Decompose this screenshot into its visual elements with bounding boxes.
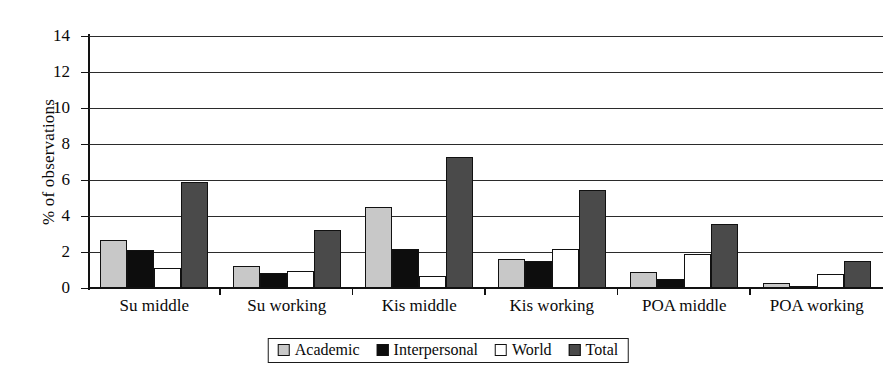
bar-interpersonal[interactable] [127, 250, 154, 288]
bar-group-bars [88, 36, 221, 288]
y-axis-tick-label: 4 [62, 206, 71, 226]
bar-interpersonal[interactable] [790, 286, 817, 288]
x-axis-tick [749, 287, 751, 295]
legend-item[interactable]: Total [569, 341, 619, 359]
bar-chart-figure: % of observations 14121086420 Su middleS… [0, 0, 896, 387]
bar-total[interactable] [314, 230, 341, 288]
x-axis-category-label: Kis working [486, 296, 619, 316]
y-axis-tick-label: 6 [62, 170, 71, 190]
bar-interpersonal[interactable] [525, 261, 552, 288]
bar-group [88, 36, 221, 288]
plot-area: 14121086420 [88, 36, 883, 288]
legend-item[interactable]: Academic [278, 341, 360, 359]
legend-swatch-icon [278, 344, 290, 356]
bar-group [353, 36, 486, 288]
bar-world[interactable] [287, 271, 314, 288]
x-axis-tick [484, 287, 486, 295]
legend-label: Interpersonal [394, 341, 478, 359]
bar-academic[interactable] [763, 283, 790, 288]
x-axis-tick [219, 287, 221, 295]
x-axis-tick [617, 287, 619, 295]
legend-swatch-icon [569, 344, 581, 356]
bar-total[interactable] [844, 261, 871, 288]
bar-world[interactable] [154, 268, 181, 288]
bar-group [751, 36, 884, 288]
y-axis-tick-label: 12 [53, 62, 70, 82]
bar-world[interactable] [552, 249, 579, 288]
x-axis-category-label: Kis middle [353, 296, 486, 316]
x-axis-tick [352, 287, 354, 295]
y-axis-tick-label: 10 [53, 98, 70, 118]
bar-academic[interactable] [365, 207, 392, 288]
bar-interpersonal[interactable] [260, 273, 287, 288]
bar-group [486, 36, 619, 288]
bar-group-bars [221, 36, 354, 288]
bar-group-bars [486, 36, 619, 288]
bar-academic[interactable] [233, 266, 260, 288]
bar-world[interactable] [419, 276, 446, 288]
bar-group-bars [353, 36, 486, 288]
y-axis-tick-label: 0 [62, 278, 71, 298]
bar-interpersonal[interactable] [392, 249, 419, 288]
y-axis-tick-label: 14 [53, 26, 70, 46]
legend-label: Academic [295, 341, 360, 359]
bar-group-bars [618, 36, 751, 288]
chart-legend: AcademicInterpersonalWorldTotal [268, 338, 629, 363]
x-axis-category-label: POA middle [618, 296, 751, 316]
bar-total[interactable] [446, 157, 473, 288]
y-axis-tick: 0 [81, 288, 89, 289]
bar-total[interactable] [181, 182, 208, 288]
bar-total[interactable] [579, 190, 606, 288]
bar-academic[interactable] [630, 272, 657, 288]
bar-academic[interactable] [498, 259, 525, 288]
x-axis-labels: Su middleSu workingKis middleKis working… [88, 296, 883, 316]
bar-group [618, 36, 751, 288]
bar-group [221, 36, 354, 288]
x-axis-category-label: Su middle [88, 296, 221, 316]
legend-item[interactable]: Interpersonal [377, 341, 478, 359]
y-axis-tick-label: 8 [62, 134, 71, 154]
legend-label: World [512, 341, 552, 359]
gridline [88, 288, 883, 289]
bar-total[interactable] [711, 224, 738, 288]
y-axis-tick-label: 2 [62, 242, 71, 262]
bar-group-bars [751, 36, 884, 288]
bar-world[interactable] [684, 254, 711, 288]
legend-label: Total [586, 341, 619, 359]
x-axis-category-label: Su working [221, 296, 354, 316]
x-axis-category-label: POA working [751, 296, 884, 316]
bar-world[interactable] [817, 274, 844, 288]
bar-academic[interactable] [100, 240, 127, 288]
legend-swatch-icon [495, 344, 507, 356]
bar-groups [88, 36, 883, 288]
legend-swatch-icon [377, 344, 389, 356]
bar-interpersonal[interactable] [657, 279, 684, 288]
legend-item[interactable]: World [495, 341, 552, 359]
